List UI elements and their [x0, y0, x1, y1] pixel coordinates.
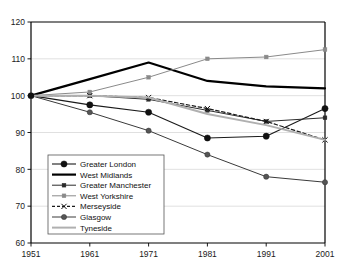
x-tick-label: 1961 [80, 249, 99, 259]
data-point [263, 133, 269, 139]
data-point [87, 110, 92, 115]
x-tick-label: 1951 [22, 249, 41, 259]
data-point [323, 48, 327, 52]
line-chart: 6070809010011012019511961197119811991200… [0, 0, 342, 271]
data-point [61, 161, 67, 167]
x-tick-label: 1981 [198, 249, 217, 259]
chart-container: 6070809010011012019511961197119811991200… [0, 0, 342, 271]
data-point [322, 105, 328, 111]
data-point [264, 174, 269, 179]
y-tick-label: 90 [16, 128, 26, 138]
legend-label: Tyneside [80, 224, 113, 233]
legend-label: Merseyside [80, 202, 121, 211]
data-point [206, 57, 210, 61]
data-point [146, 128, 151, 133]
origin-marker [28, 92, 34, 98]
chart-legend: Greater LondonWest MidlandsGreater Manch… [48, 155, 164, 234]
data-point [323, 116, 327, 120]
legend-label: Greater Manchester [80, 181, 151, 190]
x-tick-label: 1971 [139, 249, 158, 259]
data-point [87, 102, 93, 108]
data-point [147, 75, 151, 79]
data-point [62, 183, 66, 187]
data-point [61, 214, 66, 219]
y-tick-label: 110 [11, 54, 25, 64]
legend-label: Glasgow [80, 213, 111, 222]
data-point [62, 194, 66, 198]
y-tick-label: 80 [16, 165, 26, 175]
y-tick-label: 70 [16, 201, 26, 211]
y-tick-label: 100 [11, 91, 25, 101]
data-point [146, 109, 152, 115]
y-tick-label: 60 [16, 238, 26, 248]
data-point [205, 152, 210, 157]
legend-label: West Yorkshire [80, 192, 134, 201]
legend-label: Greater London [80, 160, 136, 169]
x-tick-label: 2001 [316, 249, 335, 259]
legend-label: West Midlands [80, 171, 132, 180]
data-point [88, 90, 92, 94]
data-point [264, 55, 268, 59]
data-point [204, 135, 210, 141]
y-tick-label: 120 [11, 17, 25, 27]
x-tick-label: 1991 [257, 249, 276, 259]
data-point [322, 180, 327, 185]
